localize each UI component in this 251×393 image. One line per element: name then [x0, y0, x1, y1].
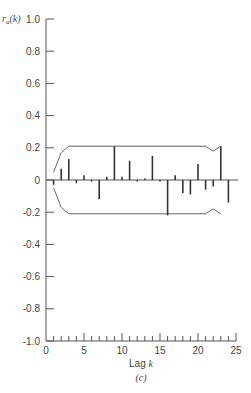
- lower-limit: [54, 188, 221, 214]
- axis-titles: Lag k(c): [129, 358, 153, 384]
- y-tick-label: 0.8: [26, 46, 40, 57]
- x-axis: 0510152025: [43, 333, 242, 356]
- y-tick-label: -1.0: [23, 336, 41, 347]
- x-tick-label: 25: [230, 345, 242, 356]
- acf-chart: ra(k) 1.00.80.60.40.20-0.2-0.4-0.6-0.8-1…: [0, 0, 251, 393]
- y-tick-label: 0: [34, 175, 40, 186]
- panel-label: (c): [135, 372, 147, 384]
- y-tick-label: 0.6: [26, 78, 40, 89]
- y-axis-label: ra(k): [2, 13, 21, 26]
- acf-bars: [54, 146, 229, 215]
- x-tick-label: 10: [116, 345, 128, 356]
- x-tick-label: 5: [81, 345, 87, 356]
- y-tick-label: -0.2: [23, 207, 41, 218]
- y-tick-label: -0.4: [23, 239, 41, 250]
- y-axis-title: ra(k): [2, 13, 21, 26]
- y-tick-label: -0.6: [23, 271, 41, 282]
- y-tick-label: 1.0: [26, 14, 40, 25]
- upper-limit: [54, 146, 221, 172]
- x-axis-title: Lag k: [129, 358, 153, 369]
- y-tick-label: 0.4: [26, 110, 40, 121]
- y-tick-label: -0.8: [23, 303, 41, 314]
- x-tick-label: 0: [43, 345, 49, 356]
- x-tick-label: 15: [154, 345, 166, 356]
- y-tick-label: 0.2: [26, 142, 40, 153]
- x-tick-label: 20: [192, 345, 204, 356]
